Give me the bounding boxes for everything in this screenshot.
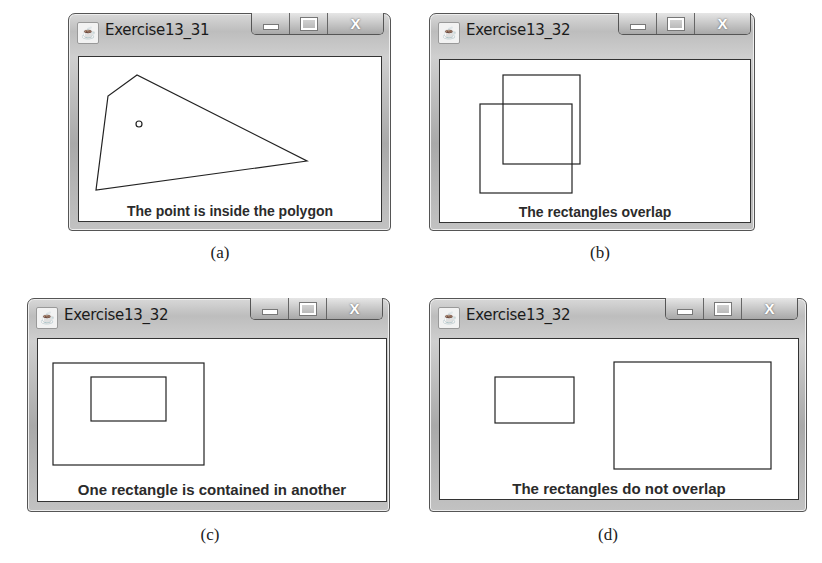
window-title: Exercise13_31 xyxy=(105,21,209,39)
maximize-button[interactable] xyxy=(290,13,328,34)
minimize-button[interactable] xyxy=(619,13,657,34)
inner-rectangle xyxy=(91,377,166,421)
maximize-icon xyxy=(715,303,731,315)
java-app-icon: ☕ xyxy=(438,307,460,329)
caption-d: (d) xyxy=(578,525,638,545)
window-exercise13-32-no-overlap: ☕ Exercise13_32 X The rectangles do not … xyxy=(429,298,807,512)
test-point xyxy=(136,121,142,127)
maximize-button[interactable] xyxy=(289,298,327,319)
window-controls: X xyxy=(251,13,384,35)
window-title: Exercise13_32 xyxy=(466,21,570,39)
title-bar[interactable]: ☕ Exercise13_32 X xyxy=(430,14,754,54)
rectangles-canvas xyxy=(440,60,750,222)
maximize-icon xyxy=(301,18,317,30)
drawing-panel: One rectangle is contained in another xyxy=(37,338,387,502)
rectangle-1 xyxy=(503,75,580,164)
window-exercise13-31: ☕ Exercise13_31 X The point is inside th… xyxy=(68,13,391,231)
status-text: The point is inside the polygon xyxy=(79,203,381,219)
title-bar[interactable]: ☕ Exercise13_32 X xyxy=(430,299,806,339)
rectangle-2 xyxy=(480,104,572,193)
minimize-button[interactable] xyxy=(252,13,290,34)
title-bar[interactable]: ☕ Exercise13_31 X xyxy=(69,14,390,54)
maximize-button[interactable] xyxy=(704,298,742,319)
maximize-icon xyxy=(300,303,316,315)
window-controls: X xyxy=(665,298,798,320)
rectangles-canvas xyxy=(38,339,386,501)
window-title: Exercise13_32 xyxy=(64,306,168,324)
outer-rectangle xyxy=(53,363,204,465)
rectangle-2 xyxy=(614,362,771,469)
minimize-icon xyxy=(630,24,646,30)
rectangles-canvas xyxy=(440,339,798,499)
maximize-button[interactable] xyxy=(657,13,695,34)
close-button[interactable]: X xyxy=(695,13,750,34)
drawing-panel: The rectangles overlap xyxy=(439,59,751,223)
minimize-icon xyxy=(263,24,279,30)
window-exercise13-32-contained: ☕ Exercise13_32 X One rectangle is conta… xyxy=(27,298,390,512)
close-icon: X xyxy=(349,300,359,317)
drawing-panel: The point is inside the polygon xyxy=(78,56,382,222)
drawing-panel: The rectangles do not overlap xyxy=(439,338,799,500)
close-button[interactable]: X xyxy=(327,298,382,319)
polygon-canvas xyxy=(79,57,381,221)
close-icon: X xyxy=(350,15,360,32)
close-button[interactable]: X xyxy=(742,298,797,319)
window-title: Exercise13_32 xyxy=(466,306,570,324)
window-exercise13-32-overlap: ☕ Exercise13_32 X The rectangles overlap xyxy=(429,13,755,231)
maximize-icon xyxy=(668,18,684,30)
status-text: One rectangle is contained in another xyxy=(38,481,386,498)
close-button[interactable]: X xyxy=(328,13,383,34)
title-bar[interactable]: ☕ Exercise13_32 X xyxy=(28,299,389,339)
minimize-icon xyxy=(262,309,278,315)
minimize-icon xyxy=(677,309,693,315)
caption-a: (a) xyxy=(190,243,250,263)
window-controls: X xyxy=(250,298,383,320)
java-app-icon: ☕ xyxy=(36,307,58,329)
status-text: The rectangles do not overlap xyxy=(440,480,798,497)
caption-c: (c) xyxy=(180,525,240,545)
close-icon: X xyxy=(764,300,774,317)
rectangle-1 xyxy=(495,377,574,423)
minimize-button[interactable] xyxy=(666,298,704,319)
close-icon: X xyxy=(717,15,727,32)
caption-b: (b) xyxy=(570,243,630,263)
java-app-icon: ☕ xyxy=(438,22,460,44)
minimize-button[interactable] xyxy=(251,298,289,319)
java-app-icon: ☕ xyxy=(77,22,99,44)
window-controls: X xyxy=(618,13,751,35)
status-text: The rectangles overlap xyxy=(440,204,750,220)
polygon-shape xyxy=(96,75,307,190)
